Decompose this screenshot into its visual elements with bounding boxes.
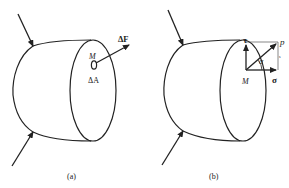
label-force-delta-f: ΔF xyxy=(118,34,129,44)
label-p: p xyxy=(279,37,285,47)
external-force-arrow-bottom xyxy=(12,132,33,166)
stress-diagram: M ΔF ΔA (a) M τ p σ α s (b) xyxy=(0,0,289,188)
caption-b: (b) xyxy=(209,172,219,181)
panel-a: M ΔF ΔA (a) xyxy=(12,14,129,181)
label-point-m: M xyxy=(241,77,250,86)
label-sigma: σ xyxy=(272,75,277,85)
cut-section-ellipse xyxy=(220,40,266,141)
label-point-m: M xyxy=(88,52,97,61)
body-outline xyxy=(164,40,240,141)
tick-mark: s xyxy=(279,54,281,59)
external-force-arrow-top xyxy=(18,14,33,46)
body-outline xyxy=(13,40,91,141)
caption-a: (a) xyxy=(67,172,76,181)
external-force-arrow-top xyxy=(168,10,183,45)
area-element-delta-a xyxy=(91,61,96,69)
label-tau: τ xyxy=(243,35,248,45)
force-arrow-delta-f xyxy=(96,45,129,63)
panel-b: M τ p σ α s (b) xyxy=(162,10,285,181)
external-force-arrow-bottom xyxy=(162,131,183,165)
label-area-delta-a: ΔA xyxy=(88,76,99,85)
